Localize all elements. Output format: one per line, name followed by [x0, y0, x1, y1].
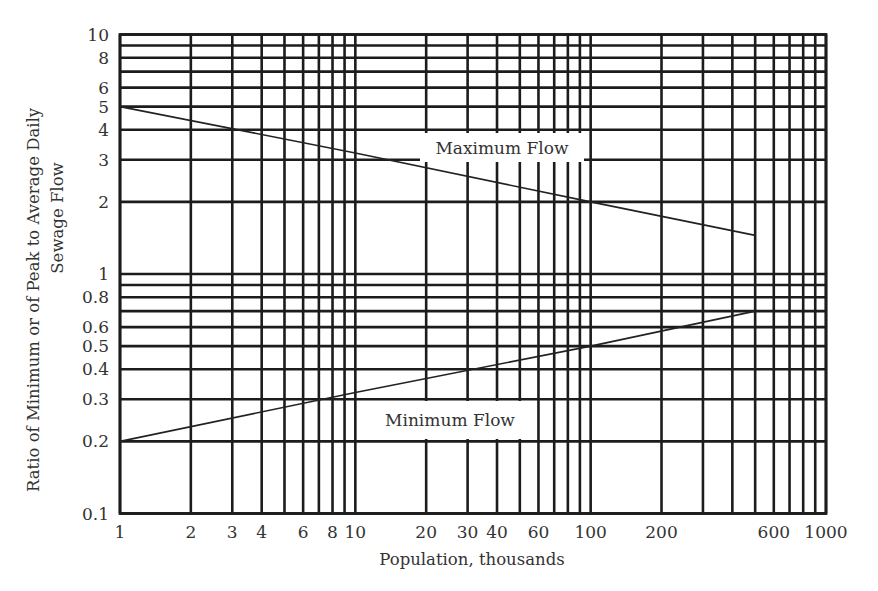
x-tick-label: 200: [645, 522, 677, 542]
y-tick-label: 0.4: [82, 359, 109, 379]
x-tick-label: 8: [327, 522, 338, 542]
log-log-chart: Maximum FlowMinimum Flow 123468102030406…: [0, 0, 878, 591]
x-tick-label: 60: [528, 522, 550, 542]
x-tick-label: 100: [574, 522, 606, 542]
x-tick-label: 4: [256, 522, 267, 542]
y-tick-label: 8: [98, 48, 109, 68]
x-tick-label: 1000: [804, 522, 847, 542]
y-tick-label: 0.6: [82, 317, 109, 337]
maximum-flow-line: [120, 107, 755, 236]
x-tick-label: 20: [415, 522, 437, 542]
x-tick-label: 30: [457, 522, 479, 542]
y-tick-label: 0.3: [82, 389, 109, 409]
y-tick-label: 10: [87, 25, 109, 45]
y-axis-title: Ratio of Minimum or of Peak to Average D…: [24, 107, 43, 492]
x-tick-labels: 12346810203040601002006001000: [115, 522, 848, 542]
horizontal-gridlines: [120, 35, 826, 514]
y-tick-label: 0.2: [82, 431, 109, 451]
y-tick-label: 2: [98, 192, 109, 212]
y-tick-label: 4: [98, 120, 109, 140]
x-tick-label: 1: [115, 522, 126, 542]
y-axis-title-2: Sewage Flow: [48, 162, 67, 273]
x-tick-label: 3: [227, 522, 238, 542]
x-tick-label: 2: [185, 522, 196, 542]
y-tick-label: 0.1: [82, 504, 109, 524]
x-tick-label: 6: [298, 522, 309, 542]
min-flow-label: Minimum Flow: [385, 410, 515, 430]
max-flow-label: Maximum Flow: [435, 138, 569, 158]
x-tick-label: 40: [486, 522, 508, 542]
y-tick-label: 3: [98, 150, 109, 170]
y-tick-label: 0.5: [82, 336, 109, 356]
y-tick-label: 6: [98, 78, 109, 98]
x-axis-title: Population, thousands: [379, 550, 564, 569]
y-axis-title-line1: Ratio of Minimum or of Peak to Average D…: [24, 107, 43, 492]
x-tick-label: 600: [758, 522, 790, 542]
x-tick-label: 10: [345, 522, 367, 542]
y-tick-label: 0.8: [82, 287, 109, 307]
y-tick-label: 1: [98, 264, 109, 284]
y-tick-label: 5: [98, 97, 109, 117]
y-tick-labels: 0.10.20.30.40.50.60.8123456810: [82, 25, 109, 524]
y-axis-title-line2: Sewage Flow: [48, 162, 67, 273]
